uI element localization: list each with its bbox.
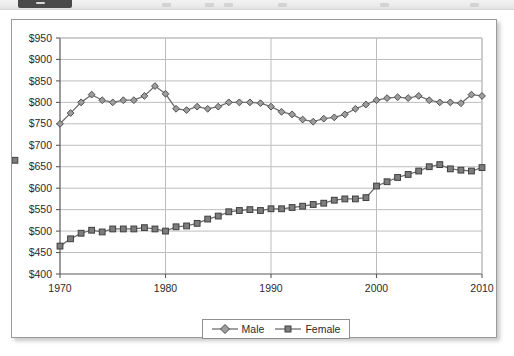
data-point-male — [204, 105, 211, 112]
data-point-female — [300, 203, 306, 209]
data-point-female — [99, 229, 105, 235]
data-point-female — [226, 209, 232, 215]
data-point-female — [215, 213, 221, 219]
legend-label-female: Female — [305, 323, 340, 335]
data-point-female — [384, 179, 390, 185]
data-point-female — [142, 225, 148, 231]
data-point-male — [268, 103, 275, 110]
data-point-female — [458, 167, 464, 173]
toolbar-icon-5[interactable] — [380, 3, 389, 7]
chart-legend: Male Female — [202, 319, 350, 339]
data-point-male — [257, 100, 264, 107]
toolbar-icon-1[interactable] — [162, 3, 171, 7]
y-axis-tick-label: $450 — [29, 246, 53, 258]
data-point-male — [384, 95, 391, 102]
legend-marker-diamond-icon — [212, 323, 238, 335]
data-point-female — [469, 168, 475, 174]
data-point-female — [416, 168, 422, 174]
data-point-female — [279, 206, 285, 212]
data-point-female — [331, 197, 337, 203]
y-axis-tick-label: $850 — [29, 75, 53, 87]
data-point-female — [152, 226, 158, 232]
y-axis-tick-label: $950 — [29, 32, 53, 44]
toolbar-icon-2[interactable] — [205, 3, 214, 7]
toolbar-strip — [0, 0, 514, 10]
data-point-female — [405, 172, 411, 178]
y-axis-tick-label: $500 — [29, 225, 53, 237]
data-point-female — [78, 230, 84, 236]
data-point-female — [247, 207, 253, 213]
data-point-female — [289, 205, 295, 211]
data-point-female — [374, 183, 380, 189]
x-axis-tick-label: 1970 — [48, 282, 72, 294]
data-point-male — [352, 105, 359, 112]
data-point-male — [109, 99, 116, 106]
data-point-female — [173, 224, 179, 230]
y-axis-tick-label: $600 — [29, 182, 53, 194]
data-point-female — [437, 162, 443, 168]
legend-marker-square-icon — [275, 323, 301, 335]
data-point-female — [194, 220, 200, 226]
data-point-female — [131, 226, 137, 232]
data-point-male — [341, 111, 348, 118]
data-point-female — [205, 216, 211, 222]
data-point-female — [163, 228, 169, 234]
data-point-male — [447, 99, 454, 106]
y-axis-tick-label: $900 — [29, 53, 53, 65]
x-axis-tick-label: 2000 — [365, 282, 389, 294]
legend-item-female: Female — [275, 323, 340, 335]
data-point-male — [194, 103, 201, 110]
data-point-male — [278, 108, 285, 115]
toolbar-icon-3[interactable] — [224, 3, 233, 7]
line-chart: $950$900$850$800$750$700$650$600$550$500… — [12, 20, 498, 339]
data-point-female — [89, 227, 95, 233]
data-point-female — [310, 202, 316, 208]
data-point-female — [342, 196, 348, 202]
chart-card: $950$900$850$800$750$700$650$600$550$500… — [11, 19, 497, 338]
data-point-female — [447, 166, 453, 172]
x-axis-tick-label: 1990 — [259, 282, 283, 294]
x-axis-tick-label: 2010 — [470, 282, 494, 294]
data-point-female — [363, 195, 369, 201]
data-point-female — [258, 208, 264, 214]
legend-item-male: Male — [212, 323, 265, 335]
data-point-female — [321, 200, 327, 206]
y-axis-tick-label: $650 — [29, 160, 53, 172]
data-point-female — [395, 175, 401, 181]
data-point-male — [299, 116, 306, 123]
data-point-female — [184, 223, 190, 229]
data-point-female — [120, 226, 126, 232]
data-point-female — [353, 196, 359, 202]
y-axis-tick-label: $800 — [29, 96, 53, 108]
y-axis-tick-label: $400 — [29, 268, 53, 280]
y-axis-tick-label: $700 — [29, 139, 53, 151]
data-point-male — [289, 111, 296, 118]
data-point-male — [247, 99, 254, 106]
data-point-male — [405, 95, 412, 102]
data-point-female — [57, 243, 63, 249]
toolbar-active-tab[interactable] — [18, 0, 72, 8]
data-point-male — [225, 99, 232, 106]
legend-label-male: Male — [242, 323, 265, 335]
data-point-female — [426, 164, 432, 170]
x-axis-tick-label: 1980 — [154, 282, 178, 294]
data-point-female — [236, 208, 242, 214]
data-point-female — [268, 206, 274, 212]
data-point-female — [68, 236, 74, 242]
chart-canvas: $950$900$850$800$750$700$650$600$550$500… — [12, 20, 498, 339]
data-point-male — [331, 114, 338, 121]
data-point-male — [436, 99, 443, 106]
data-point-male — [236, 99, 243, 106]
toolbar-icon-6[interactable] — [470, 3, 479, 7]
data-point-female — [479, 165, 485, 171]
toolbar-icon-4[interactable] — [278, 3, 287, 7]
y-axis-tick-label: $550 — [29, 203, 53, 215]
y-axis-tick-label: $750 — [29, 117, 53, 129]
data-point-male — [215, 103, 222, 110]
data-point-male — [183, 107, 190, 114]
data-point-female — [110, 226, 116, 232]
data-point-male — [415, 93, 422, 100]
data-point-male — [394, 94, 401, 101]
data-point-male — [479, 93, 486, 100]
data-point-female — [12, 157, 18, 163]
